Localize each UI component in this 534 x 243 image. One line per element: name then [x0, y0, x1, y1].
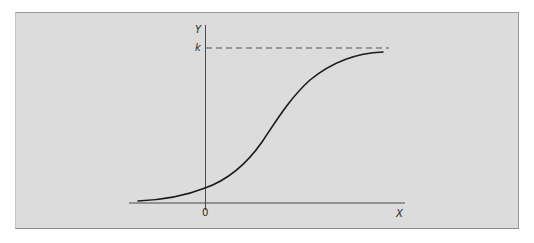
asymptote-label: k — [195, 43, 201, 53]
origin-label: 0 — [202, 208, 208, 218]
logistic-curve — [138, 52, 383, 201]
x-axis-label: X — [396, 209, 403, 219]
y-axis-label: Y — [195, 25, 201, 35]
logistic-chart — [0, 0, 534, 243]
